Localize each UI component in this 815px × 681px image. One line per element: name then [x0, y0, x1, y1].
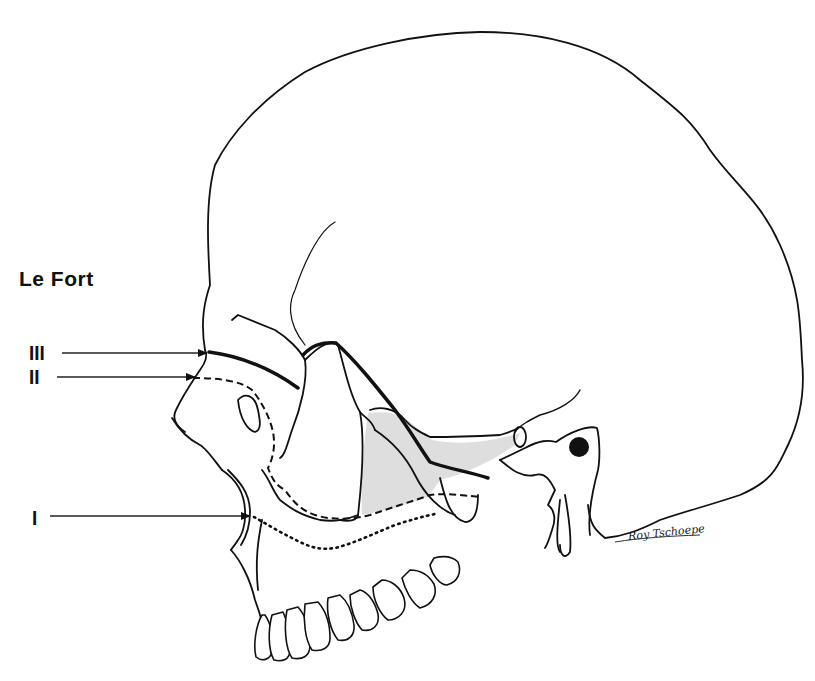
- ear-canal: [569, 437, 589, 457]
- shaded-region: [362, 412, 520, 515]
- pointer-arrows: [50, 353, 250, 516]
- upper-teeth: [255, 557, 460, 661]
- skull-illustration: [0, 0, 815, 681]
